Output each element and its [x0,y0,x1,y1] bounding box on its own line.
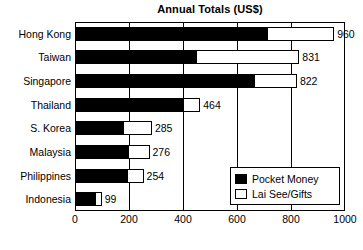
bar-segment-lai-see-gifts [95,192,102,206]
legend-item-pocket-money: Pocket Money [235,171,335,186]
bar-segment-lai-see-gifts [183,98,200,112]
bar-segment-pocket-money [75,169,127,183]
category-label: Hong Kong [0,28,71,40]
bar-value-label: 285 [152,121,173,135]
bar-segment-pocket-money [75,27,267,41]
legend-label: Pocket Money [252,173,319,185]
bar-segment-lai-see-gifts [267,27,334,41]
bar-segment-pocket-money [75,74,254,88]
bar-row: 831 [75,50,345,64]
chart-title: Annual Totals (US$) [75,2,345,16]
x-tick-label: 400 [174,213,192,226]
bar-segment-lai-see-gifts [196,50,299,64]
bar-segment-lai-see-gifts [128,145,149,159]
bar-value-label: 822 [297,74,318,88]
bar-row: 960 [75,27,345,41]
bar-value-label: 831 [299,50,320,64]
bar-value-label: 99 [102,192,117,206]
bar-row: 276 [75,145,345,159]
bar-segment-pocket-money [75,145,128,159]
x-tick-label: 600 [228,213,246,226]
bar-segment-pocket-money [75,50,196,64]
bar-segment-lai-see-gifts [254,74,297,88]
bar-segment-pocket-money [75,192,95,206]
bar-segment-pocket-money [75,98,183,112]
x-tick-label: 800 [282,213,300,226]
category-label: S. Korea [0,122,71,134]
black-swatch-icon [235,174,247,184]
bar-value-label: 276 [150,145,171,159]
x-axis-tick-labels: 02004006008001000 [0,213,363,231]
bar-segment-lai-see-gifts [123,121,152,135]
bar-row: 464 [75,98,345,112]
category-label: Indonesia [0,193,71,205]
bar-segment-lai-see-gifts [127,169,143,183]
x-tick-label: 0 [72,213,78,226]
bar-row: 285 [75,121,345,135]
category-label: Singapore [0,75,71,87]
chart-legend: Pocket Money Lai See/Gifts [230,167,340,205]
category-label: Malaysia [0,146,71,158]
category-label: Philippines [0,170,71,182]
bar-value-label: 960 [334,27,355,41]
legend-label: Lai See/Gifts [252,188,312,200]
bar-value-label: 464 [200,98,221,112]
bar-chart: Annual Totals (US$) Hong KongTaiwanSinga… [0,0,363,250]
x-tick-label: 200 [120,213,138,226]
y-axis-category-labels: Hong KongTaiwanSingaporeThailandS. Korea… [0,22,71,211]
bar-row: 822 [75,74,345,88]
bar-segment-pocket-money [75,121,123,135]
bar-value-label: 254 [144,169,165,183]
category-label: Thailand [0,99,71,111]
white-swatch-icon [235,189,247,199]
legend-item-lai-see-gifts: Lai See/Gifts [235,186,335,201]
x-tick-label: 1000 [333,213,356,226]
category-label: Taiwan [0,51,71,63]
